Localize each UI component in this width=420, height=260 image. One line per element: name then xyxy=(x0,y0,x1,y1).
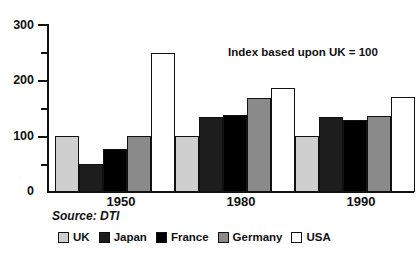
legend-label-japan: Japan xyxy=(114,231,147,243)
y-axis-label-200: 200 xyxy=(0,74,34,87)
bar-1980-japan xyxy=(199,117,223,192)
legend-label-usa: USA xyxy=(306,231,330,243)
bar-1950-usa xyxy=(151,53,175,192)
bar-chart: 300 200 100 0 1950 1980 1990 Index xyxy=(0,0,420,260)
x-axis-group-label-1990: 1990 xyxy=(316,194,406,209)
bar-1980-france xyxy=(223,115,247,192)
bar-1950-uk xyxy=(55,136,79,192)
legend-item-france: France xyxy=(156,231,209,243)
bar-1990-germany xyxy=(367,116,391,192)
x-axis-group-label-1980: 1980 xyxy=(196,194,286,209)
legend-item-japan: Japan xyxy=(99,231,147,243)
bar-1980-uk xyxy=(175,136,199,192)
legend-swatch-france-icon xyxy=(156,232,167,243)
source-note: Source: DTI xyxy=(52,209,119,223)
bar-1990-france xyxy=(343,120,367,192)
legend-item-usa: USA xyxy=(291,231,330,243)
bar-1950-germany xyxy=(127,136,151,192)
y-axis-label-300: 300 xyxy=(0,19,34,32)
chart-legend: UK Japan France Germany USA xyxy=(58,231,331,243)
y-axis-label-100: 100 xyxy=(0,130,34,143)
bar-1990-japan xyxy=(319,117,343,192)
legend-swatch-japan-icon xyxy=(99,232,110,243)
bar-1980-germany xyxy=(247,98,271,192)
chart-annotation: Index based upon UK = 100 xyxy=(228,46,378,58)
legend-label-france: France xyxy=(171,231,209,243)
legend-swatch-uk-icon xyxy=(58,232,69,243)
legend-item-germany: Germany xyxy=(218,231,283,243)
x-axis-group-label-1950: 1950 xyxy=(76,194,166,209)
bar-1990-usa xyxy=(391,97,415,192)
y-axis-label-0: 0 xyxy=(0,185,34,198)
x-axis-separator-2 xyxy=(294,186,296,193)
bar-1980-usa xyxy=(271,88,295,192)
bar-1950-japan xyxy=(79,164,103,192)
legend-swatch-usa-icon xyxy=(291,232,302,243)
legend-swatch-germany-icon xyxy=(218,232,229,243)
x-axis-separator-1 xyxy=(174,186,176,193)
legend-item-uk: UK xyxy=(58,231,90,243)
legend-label-germany: Germany xyxy=(233,231,283,243)
bar-1990-uk xyxy=(295,136,319,192)
legend-label-uk: UK xyxy=(73,231,90,243)
bar-1950-france xyxy=(103,149,127,192)
